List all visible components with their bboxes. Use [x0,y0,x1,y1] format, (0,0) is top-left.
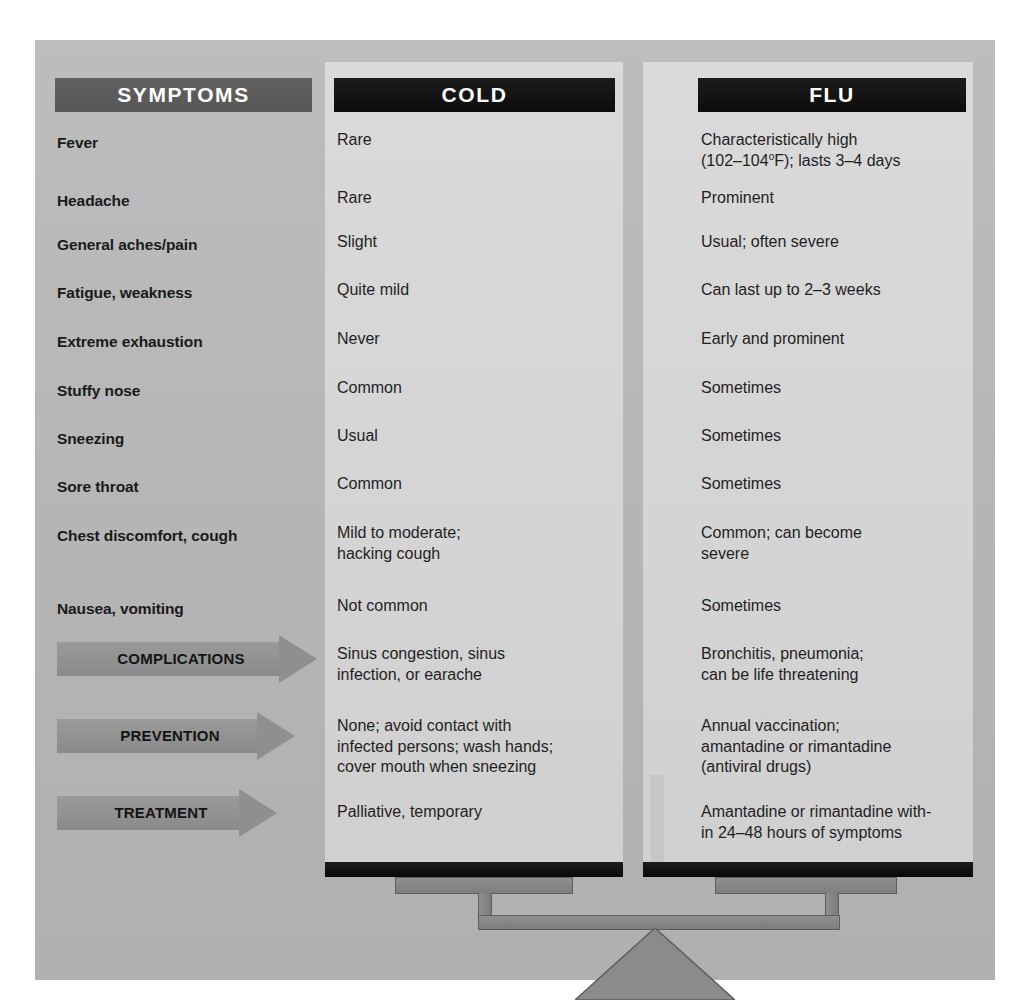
cell-cold-prevention: None; avoid contact with infected person… [337,716,622,778]
arrow-complications-label: COMPLICATIONS [83,650,252,667]
row-label-sneezing: Sneezing [57,430,124,448]
cell-cold-general-aches: Slight [337,232,622,253]
arrow-complications: COMPLICATIONS [57,642,317,676]
cell-flu-fever-text: Characteristically high (102–104oF); las… [701,131,900,169]
cold-header-label: COLD [442,83,508,107]
cell-cold-stuffy-nose: Common [337,378,622,399]
cell-flu-prevention: Annual vaccination; amantadine or rimant… [701,716,1001,778]
cell-cold-treatment: Palliative, temporary [337,802,622,823]
cell-flu-chest-discomfort: Common; can become severe [701,523,1001,564]
cell-cold-sneezing: Usual [337,426,622,447]
cell-flu-fever: Characteristically high (102–104oF); las… [701,130,1001,171]
flu-header-bar: FLU [698,78,966,112]
arrow-prevention-tip [257,712,295,760]
scale-fulcrum-triangle-icon [575,928,735,1000]
comparison-chart: SYMPTOMS COLD FLU Fever Headache General… [0,0,1032,1008]
row-label-general-aches: General aches/pain [57,236,197,254]
scale-center-post [650,775,664,867]
cell-flu-general-aches: Usual; often severe [701,232,1001,253]
cell-cold-chest-discomfort: Mild to moderate; hacking cough [337,523,622,564]
cell-cold-headache: Rare [337,188,622,209]
row-label-extreme-exhaustion: Extreme exhaustion [57,333,203,351]
scale-pan-flu [643,862,973,877]
arrow-prevention-label: PREVENTION [86,727,228,744]
arrow-treatment-tail: TREATMENT [57,796,239,830]
row-label-chest-discomfort: Chest discomfort, cough [57,527,237,545]
cell-flu-complications: Bronchitis, pneumonia; can be life threa… [701,644,1001,685]
row-label-nausea: Nausea, vomiting [57,600,184,618]
cell-flu-stuffy-nose: Sometimes [701,378,1001,399]
row-label-sore-throat: Sore throat [57,478,139,496]
arrow-prevention-tail: PREVENTION [57,719,257,753]
flu-header-label: FLU [809,83,855,107]
degree-symbol-icon: o [769,150,775,161]
scale-fulcrum [575,928,735,1000]
cell-flu-sneezing: Sometimes [701,426,1001,447]
cell-cold-fever: Rare [337,130,622,151]
cell-flu-fatigue: Can last up to 2–3 weeks [701,280,1001,301]
cold-header-bar: COLD [334,78,615,112]
cell-cold-extreme-exhaustion: Never [337,329,622,350]
scale-pan-support-cold [395,877,573,894]
cell-flu-extreme-exhaustion: Early and prominent [701,329,1001,350]
cell-flu-treatment: Amantadine or rimantadine with- in 24–48… [701,802,1001,843]
arrow-complications-tip [279,635,317,683]
cell-cold-complications: Sinus congestion, sinus infection, or ea… [337,644,622,685]
row-label-stuffy-nose: Stuffy nose [57,382,140,400]
chart-frame: SYMPTOMS COLD FLU Fever Headache General… [35,40,995,980]
cell-flu-sore-throat: Sometimes [701,474,1001,495]
scale-pan-cold [325,862,623,877]
arrow-prevention: PREVENTION [57,719,295,753]
arrow-treatment-label: TREATMENT [80,804,215,821]
arrow-treatment: TREATMENT [57,796,277,830]
cell-flu-nausea: Sometimes [701,596,1001,617]
symptoms-header-label: SYMPTOMS [117,83,250,107]
row-label-fatigue: Fatigue, weakness [57,284,192,302]
symptoms-header-bar: SYMPTOMS [55,78,312,112]
cell-cold-nausea: Not common [337,596,622,617]
cell-flu-headache: Prominent [701,188,1001,209]
scale-pan-support-flu [715,877,897,894]
arrow-treatment-tip [239,789,277,837]
cell-cold-sore-throat: Common [337,474,622,495]
arrow-complications-tail: COMPLICATIONS [57,642,279,676]
cell-cold-fatigue: Quite mild [337,280,622,301]
row-label-fever: Fever [57,134,98,152]
row-label-headache: Headache [57,192,129,210]
